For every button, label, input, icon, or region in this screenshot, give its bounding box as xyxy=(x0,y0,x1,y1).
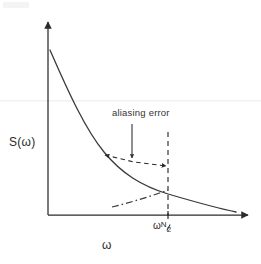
figure-canvas xyxy=(0,0,261,264)
nyquist-subscript-denominator: 2 xyxy=(167,226,171,234)
nyquist-omega-symbol: ω xyxy=(153,220,161,231)
folded-spectrum-curve xyxy=(112,190,168,207)
aliasing-error-figure: S(ω) ω aliasing error ωN2 xyxy=(0,0,261,264)
x-axis-label: ω xyxy=(102,239,111,251)
nyquist-frequency-label: ωN2 xyxy=(153,219,173,233)
true-spectrum-curve xyxy=(50,50,236,212)
aliasing-error-annotation-label: aliasing error xyxy=(112,108,170,118)
nyquist-subscript-fraction: N2 xyxy=(161,219,173,233)
nyquist-subscript-numerator: N xyxy=(161,221,167,229)
aliasing-error-gap-indicator xyxy=(105,155,166,166)
y-axis-label: S(ω) xyxy=(9,136,36,148)
